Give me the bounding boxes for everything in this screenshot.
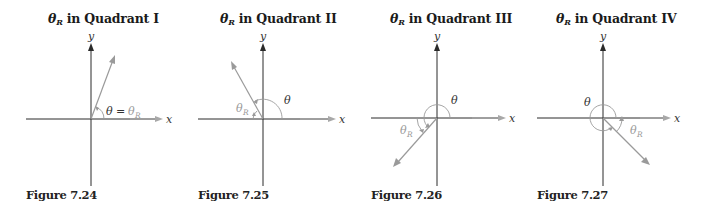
figure-caption: Figure 7.27 [537,188,608,202]
ray-arrow-icon [641,157,650,165]
x-axis-label: x [674,112,681,125]
y-axis-label: y [599,30,607,43]
y-axis-arrow-icon [600,43,606,51]
theta-label: θ [584,96,591,109]
figure-quadrant-4: θR in Quadrant IV y x θ θ R Figure 7.27 [0,0,706,209]
coordinate-diagram: y x θ θ R [0,0,706,209]
theta-r-label: θ [630,124,637,137]
x-axis-arrow-icon [663,115,671,121]
terminal-ray [603,118,645,160]
svg-text:R: R [636,130,643,139]
